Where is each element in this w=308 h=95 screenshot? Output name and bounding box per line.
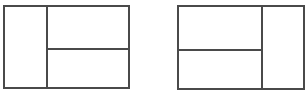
right-top-panel — [48, 7, 128, 48]
left-tall-panel — [5, 7, 46, 87]
left-top-panel — [179, 7, 261, 49]
left-layout-figure — [3, 5, 130, 89]
right-bottom-panel — [48, 50, 128, 87]
right-tall-panel — [263, 7, 303, 88]
horizontal-divider — [46, 48, 128, 50]
right-layout-figure — [177, 5, 305, 90]
horizontal-divider — [179, 49, 261, 51]
vertical-divider — [261, 7, 263, 88]
vertical-divider — [46, 7, 48, 87]
left-bottom-panel — [179, 51, 261, 88]
